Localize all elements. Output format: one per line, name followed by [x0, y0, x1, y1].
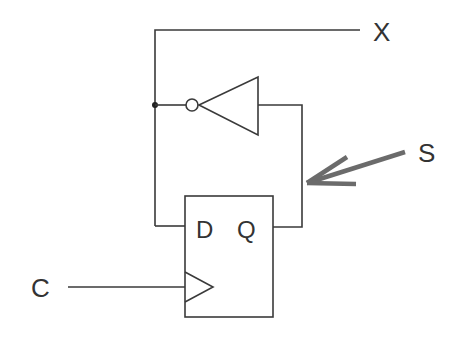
clock-label-c: C: [31, 273, 50, 303]
signal-label-s: S: [418, 138, 435, 168]
circuit-diagram: X S C D Q: [0, 0, 476, 350]
clock-triangle-icon: [185, 272, 213, 302]
output-label-x: X: [373, 17, 390, 47]
signal-arrow-icon: [307, 152, 405, 184]
inverter-triangle-icon: [199, 77, 258, 135]
d-pin-label: D: [196, 216, 213, 243]
q-pin-label: Q: [237, 216, 256, 243]
inverter-bubble-icon: [186, 99, 198, 111]
feedback-wire: [258, 105, 302, 227]
flip-flop-box: [185, 196, 273, 317]
